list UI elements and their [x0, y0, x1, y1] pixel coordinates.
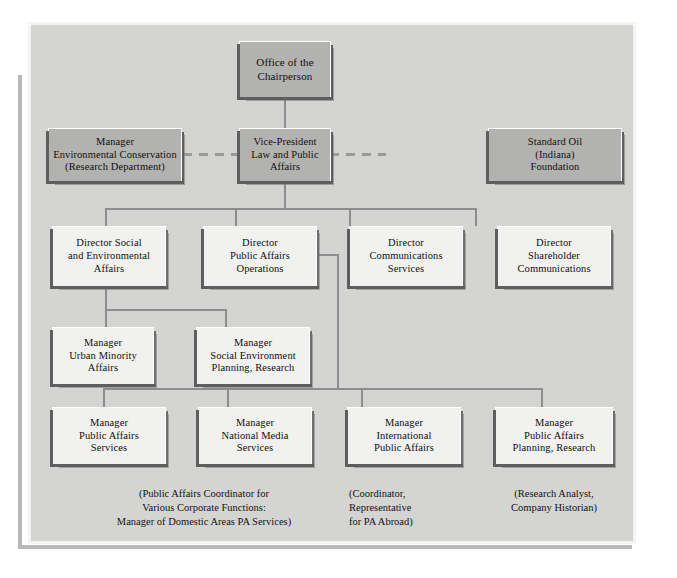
- node-director-shareholder-communications[interactable]: Director Shareholder Communications: [497, 226, 611, 287]
- node-line-1: Manager: [221, 417, 288, 430]
- connector-level3-bus: [105, 208, 477, 210]
- node-line-2: Social Environment: [210, 350, 296, 363]
- node-line-1: Office of the: [256, 56, 313, 69]
- connector-vp-drop: [284, 183, 286, 208]
- node-line-3: Operations: [230, 263, 290, 276]
- node-line-3: Services: [369, 263, 442, 276]
- node-manager-public-affairs-services[interactable]: Manager Public Affairs Services: [52, 407, 166, 465]
- node-director-public-affairs-operations[interactable]: Director Public Affairs Operations: [203, 226, 317, 287]
- node-line-1: Vice-President: [251, 136, 318, 149]
- chart-panel: Office of the Chairperson Manager Enviro…: [28, 22, 636, 544]
- node-line-3: Services: [79, 442, 139, 455]
- node-line-2: Public Affairs: [79, 430, 139, 443]
- connector-drop-dir-social: [105, 208, 107, 226]
- node-director-communications-services[interactable]: Director Communications Services: [349, 226, 463, 287]
- footnote-line-2: Various Corporate Functions:: [79, 501, 329, 515]
- node-line-1: Manager: [374, 417, 434, 430]
- node-director-social-and-environmental-affairs[interactable]: Director Social and Environmental Affair…: [52, 226, 166, 287]
- node-manager-international-public-affairs[interactable]: Manager International Public Affairs: [347, 407, 461, 465]
- connector-drop-dir-shareholder: [475, 208, 477, 226]
- footnote-coordinator-representative: (Coordinator, Representative for PA Abro…: [349, 487, 459, 530]
- panel-shadow-bottom: [18, 545, 632, 549]
- node-line-2: Shareholder: [517, 250, 590, 263]
- node-line-1: Standard Oil: [528, 136, 583, 149]
- node-line-2: National Media: [221, 430, 288, 443]
- node-line-1: Director Social: [68, 237, 150, 250]
- node-line-3: Public Affairs: [374, 442, 434, 455]
- node-line-1: Manager: [53, 136, 177, 149]
- connector-drop-mgr-pa-services: [103, 388, 105, 407]
- footnote-public-affairs-coordinator: (Public Affairs Coordinator for Various …: [79, 487, 329, 530]
- node-line-2: International: [374, 430, 434, 443]
- node-line-2: and Environmental: [68, 250, 150, 263]
- connector-drop-dir-comm: [349, 208, 351, 226]
- footnote-line-1: (Coordinator,: [349, 487, 459, 501]
- connector-drop-mgr-urban: [105, 309, 107, 327]
- footnote-line-1: (Research Analyst,: [491, 487, 617, 501]
- node-manager-public-affairs-planning-research[interactable]: Manager Public Affairs Planning, Researc…: [495, 407, 613, 465]
- footnote-line-3: Manager of Domestic Areas PA Services): [79, 515, 329, 529]
- node-manager-national-media-services[interactable]: Manager National Media Services: [198, 407, 312, 465]
- node-line-1: Director: [369, 237, 442, 250]
- connector-drop-dir-pa-ops: [235, 208, 237, 226]
- node-standard-oil-indiana-foundation[interactable]: Standard Oil (Indiana) Foundation: [488, 128, 622, 182]
- footnote-line-3: for PA Abroad): [349, 515, 459, 529]
- connector-drop-mgr-national-media: [227, 388, 229, 407]
- node-line-2: Chairperson: [256, 70, 313, 83]
- node-office-of-the-chairperson[interactable]: Office of the Chairperson: [239, 41, 331, 98]
- connector-drop-mgr-social-env: [225, 309, 227, 327]
- node-line-2: Environmental Conservation: [53, 149, 177, 162]
- node-line-1: Director: [517, 237, 590, 250]
- node-line-3: Affairs: [68, 263, 150, 276]
- footnote-research-analyst: (Research Analyst, Company Historian): [491, 487, 617, 515]
- connector-drop-mgr-international: [361, 388, 363, 407]
- footnote-line-1: (Public Affairs Coordinator for: [79, 487, 329, 501]
- node-manager-social-environment-planning-research[interactable]: Manager Social Environment Planning, Res…: [196, 327, 310, 385]
- panel-shadow-left: [18, 75, 22, 549]
- node-line-3: Services: [221, 442, 288, 455]
- connector-dir-social-drop: [105, 287, 107, 309]
- footnote-line-2: Representative: [349, 501, 459, 515]
- node-line-2: (Indiana): [528, 149, 583, 162]
- node-line-3: (Research Department): [53, 161, 177, 174]
- connector-pa-ops-elbow-v: [337, 254, 339, 388]
- node-line-2: Law and Public: [251, 149, 318, 162]
- footnote-line-2: Company Historian): [491, 501, 617, 515]
- node-line-3: Foundation: [528, 161, 583, 174]
- node-line-1: Director: [230, 237, 290, 250]
- node-line-1: Manager: [210, 337, 296, 350]
- node-line-3: Communications: [517, 263, 590, 276]
- node-line-1: Manager: [69, 337, 137, 350]
- node-vice-president-law-and-public-affairs[interactable]: Vice-President Law and Public Affairs: [239, 128, 331, 182]
- node-manager-environmental-conservation[interactable]: Manager Environmental Conservation (Rese…: [48, 128, 182, 182]
- node-line-3: Planning, Research: [210, 362, 296, 375]
- node-line-2: Urban Minority: [69, 350, 137, 363]
- node-manager-urban-minority-affairs[interactable]: Manager Urban Minority Affairs: [52, 327, 154, 385]
- node-line-3: Affairs: [69, 362, 137, 375]
- node-line-2: Public Affairs: [513, 430, 596, 443]
- connector-level5-bus: [103, 388, 543, 390]
- node-line-3: Planning, Research: [513, 442, 596, 455]
- node-line-1: Manager: [79, 417, 139, 430]
- node-line-1: Manager: [513, 417, 596, 430]
- org-chart-root: Office of the Chairperson Manager Enviro…: [0, 0, 677, 578]
- connector-drop-mgr-pa-planning: [541, 388, 543, 407]
- connector-level4-bus: [105, 309, 227, 311]
- node-line-3: Affairs: [251, 161, 318, 174]
- node-line-2: Public Affairs: [230, 250, 290, 263]
- node-line-2: Communications: [369, 250, 442, 263]
